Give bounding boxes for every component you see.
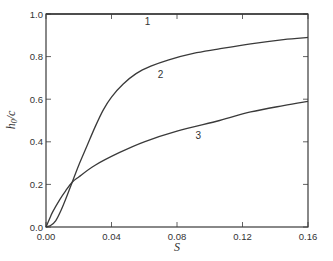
plot-border [46,14,308,227]
plot-frame [46,14,308,227]
y-tick-label: 0.6 [30,94,43,105]
y-tick-label: 0.8 [30,51,43,62]
curves [46,14,308,227]
x-axis-title: S [174,240,180,254]
x-tick-label: 0.16 [299,231,318,242]
curve-label-3: 3 [196,130,202,141]
x-tick-label: 0.04 [102,231,121,242]
y-tick-label: 0.2 [30,179,43,190]
y-tick-label: 0.4 [30,136,43,147]
y-axis-title: h0/c [4,110,19,129]
curve-2 [46,37,308,227]
curve-labels: 123 [145,16,202,141]
svg-text:h0/c: h0/c [4,110,19,129]
curve-label-1: 1 [145,16,151,27]
x-tick-label: 0.12 [233,231,252,242]
chart: 0.00.20.40.60.81.0 0.000.040.080.120.16 … [0,0,333,261]
curve-label-2: 2 [158,69,164,80]
x-tick-label: 0.00 [37,231,56,242]
x-axis-ticks: 0.000.040.080.120.16 [37,14,318,242]
curve-3 [46,101,308,227]
y-tick-label: 1.0 [30,9,43,20]
